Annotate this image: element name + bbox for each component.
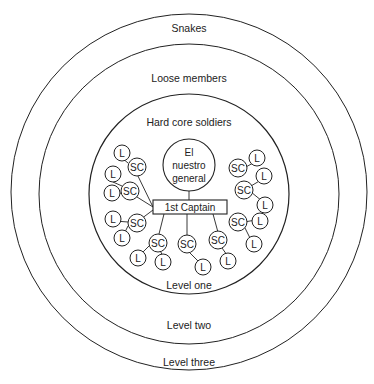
sc-label: SC — [231, 163, 245, 174]
sc-label: SC — [123, 186, 137, 197]
label-level-one: Level one — [166, 279, 212, 291]
label-hard-core-soldiers: Hard core soldiers — [146, 116, 231, 128]
l-label: L — [119, 148, 125, 159]
gang-structure-diagram: El nuestro general 1st Captain SC SC SC … — [0, 0, 374, 384]
l-label: L — [110, 169, 116, 180]
general-line1: El — [185, 147, 194, 158]
l-label: L — [262, 200, 268, 211]
l-label: L — [200, 262, 206, 273]
l-label: L — [119, 233, 125, 244]
general-line2: nuestro — [172, 160, 206, 171]
l-label: L — [254, 153, 260, 164]
captain-label: 1st Captain — [165, 202, 216, 213]
sc-label: SC — [180, 239, 194, 250]
l-label: L — [261, 171, 267, 182]
general-line3: general — [172, 173, 205, 184]
l-label: L — [135, 253, 141, 264]
label-snakes: Snakes — [171, 22, 206, 34]
sc-label: SC — [231, 217, 245, 228]
l-label: L — [110, 214, 116, 225]
l-label: L — [251, 239, 257, 250]
l-label: L — [257, 216, 263, 227]
sc-label: SC — [211, 235, 225, 246]
label-level-three: Level three — [163, 356, 215, 368]
sc-label: SC — [151, 238, 165, 249]
label-loose-members: Loose members — [151, 72, 226, 84]
sc-label: SC — [130, 162, 144, 173]
diagram-canvas: El nuestro general 1st Captain SC SC SC … — [0, 0, 374, 384]
sc-label: SC — [237, 185, 251, 196]
label-level-two: Level two — [167, 319, 212, 331]
l-label: L — [109, 188, 115, 199]
l-label: L — [225, 256, 231, 267]
l-label: L — [160, 257, 166, 268]
sc-label: SC — [130, 218, 144, 229]
